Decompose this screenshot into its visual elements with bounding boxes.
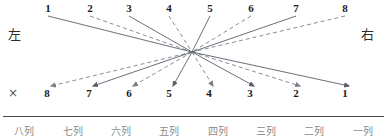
bottom-ray-4 [192,52,213,86]
top-number-label-3: 3 [122,2,136,14]
column-label-row: 八列七列六列五列四列三列二列一列 [0,124,387,140]
column-label-1: 八列 [0,126,48,138]
top-ray-3 [129,16,192,52]
bottom-ray-2 [192,52,300,86]
bottom-number-label-1: 1 [338,87,352,99]
bottom-number-label-2: 2 [289,87,303,99]
top-number-label-5: 5 [203,2,217,14]
column-label-7: 二列 [290,126,338,138]
fan-lines-svg [0,0,387,140]
top-number-label-8: 8 [338,2,352,14]
left-side-label: 左 [8,28,21,42]
top-number-label-2: 2 [83,2,97,14]
top-number-label-4: 4 [162,2,176,14]
bottom-number-label-8: 8 [40,87,54,99]
top-ray-4 [169,16,192,52]
top-number-label-7: 7 [289,2,303,14]
top-ray-2 [90,16,192,52]
bottom-ray-3 [192,52,254,86]
top-ray-8 [192,16,345,52]
top-ray-1 [48,16,192,52]
bottom-number-label-3: 3 [243,87,257,99]
column-label-4: 五列 [145,126,193,138]
column-label-8: 一列 [339,126,387,138]
horizontal-divider [3,116,384,117]
bottom-number-label-4: 4 [202,87,216,99]
top-number-label-1: 1 [41,2,55,14]
column-label-3: 六列 [97,126,145,138]
bottom-ray-group [51,52,349,86]
top-ray-group [48,16,345,52]
bottom-ray-1 [192,52,349,86]
column-label-6: 三列 [242,126,290,138]
bottom-number-label-7: 7 [82,87,96,99]
right-side-label: 右 [361,28,374,42]
column-label-2: 七列 [48,126,96,138]
bottom-number-label-6: 6 [122,87,136,99]
fan-diagram-figure: 12345678 87654321 左 右 × 八列七列六列五列四列三列二列一列 [0,0,387,140]
column-label-5: 四列 [194,126,242,138]
cross-mark-icon: × [8,87,18,99]
top-number-label-6: 6 [244,2,258,14]
bottom-ray-8 [51,52,192,86]
bottom-number-label-5: 5 [162,87,176,99]
